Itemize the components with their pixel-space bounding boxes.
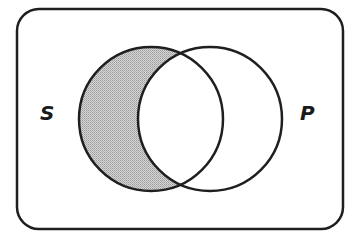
set-label-p: P <box>300 103 315 123</box>
set-label-s: S <box>40 103 54 123</box>
